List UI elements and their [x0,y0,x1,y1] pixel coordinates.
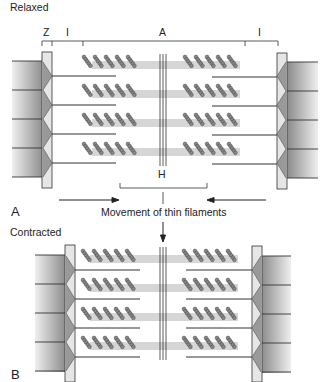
thin-filaments-contracted [75,270,252,357]
movement-arrows [59,198,266,203]
z-disc-right [277,53,287,189]
sarcomere-diagram: Relaxed Z I A I H A Movement of thin fil… [0,0,320,382]
z-disc-left-contracted [65,245,75,382]
z-band-label: Z [43,26,50,38]
contracted-panel [35,245,291,382]
left-myofibril-contracted [35,255,66,372]
i-band-left-label: I [66,26,69,38]
panel-letter-a: A [11,204,20,219]
z-disc-right-contracted [252,246,262,382]
i-band-right-label: I [258,26,261,38]
band-bracket [42,41,278,46]
movement-label: Movement of thin filaments [101,206,226,218]
h-zone-label: H [158,168,166,180]
contracted-title: Contracted [10,226,62,238]
down-arrow [161,222,166,242]
panel-letter-b: B [11,367,20,382]
a-band-label: A [159,26,166,38]
right-myofibril [287,62,318,178]
relaxed-title: Relaxed [10,1,49,13]
right-myofibril-contracted [261,256,291,373]
z-disc-left [42,52,52,188]
left-myofibril [12,61,44,177]
h-bracket [120,183,207,204]
